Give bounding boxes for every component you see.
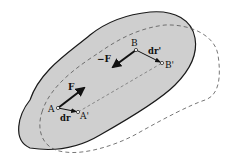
point-b bbox=[134, 48, 137, 51]
body-original bbox=[19, 12, 196, 150]
label-b-prime: B' bbox=[165, 60, 174, 70]
label-dr: dr bbox=[60, 113, 71, 123]
label-a-prime: A' bbox=[79, 111, 89, 121]
rigid-body-diagram: A A' B B' F −F dr dr' bbox=[0, 0, 237, 159]
label-b: B bbox=[131, 38, 138, 48]
label-neg-f: −F bbox=[97, 54, 112, 64]
point-b-prime bbox=[160, 61, 163, 64]
label-f: F bbox=[68, 82, 75, 92]
point-a bbox=[56, 106, 59, 109]
label-a: A bbox=[47, 104, 55, 114]
label-dr-prime: dr' bbox=[148, 46, 161, 56]
